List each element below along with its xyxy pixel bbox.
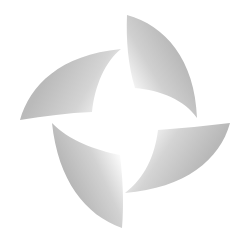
blade-bottom-right [125, 123, 230, 193]
blade-left [20, 49, 121, 120]
blade-top-right [127, 15, 197, 118]
pinwheel-logo [0, 0, 249, 246]
blade-bottom-left [52, 123, 123, 228]
